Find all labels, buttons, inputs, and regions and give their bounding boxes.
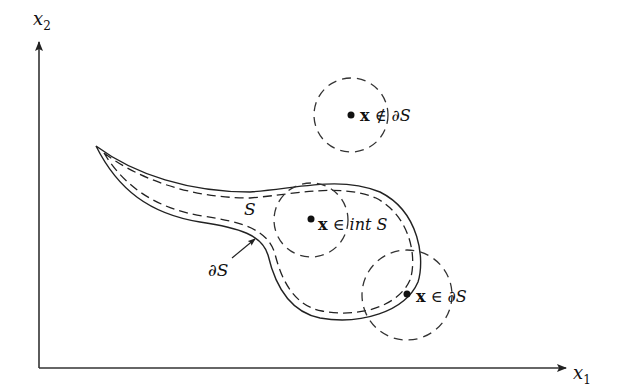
interior-point-dot — [308, 216, 315, 223]
boundary-point-label: x ∈ ∂S — [416, 287, 467, 306]
boundary-point-dot — [404, 291, 411, 298]
exterior-point-dot — [348, 112, 355, 119]
coordinate-axes — [39, 42, 566, 368]
set-boundary-diagram: x2 x1 x ∉ ∂S x ∈ int S x ∈ ∂S S ∂S — [0, 0, 620, 392]
boundary-pointer-arrow — [232, 239, 255, 258]
boundary-label: ∂S — [208, 260, 228, 280]
x-axis-label: x1 — [573, 362, 591, 387]
exterior-point-label: x ∉ ∂S — [360, 106, 411, 125]
interior-point-label: x ∈ int S — [318, 215, 388, 234]
set-s-label: S — [244, 199, 256, 219]
y-axis-label: x2 — [33, 8, 51, 33]
